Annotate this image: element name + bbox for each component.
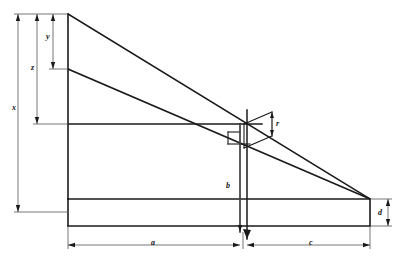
arrow-b-bottom [238,225,242,232]
figure-canvas: x z y r b a c d [0,0,401,269]
arrow-c-right [363,243,370,247]
dimension-label-y: y [46,33,50,41]
arrow-a-right [233,243,240,247]
wedge-outline [68,14,370,199]
arrow-a-left [68,243,75,247]
diagram-svg [0,0,401,269]
arrow-d-bottom [386,219,390,226]
arrow-x-top [16,14,20,21]
dimension-label-c: c [309,239,313,247]
dimension-arrowheads [16,14,390,247]
detail-upper-edge [244,112,272,124]
dimension-label-x: x [12,104,16,112]
arrow-x-bottom [16,205,20,212]
dimension-label-d: d [378,209,382,217]
arrow-z-bottom [35,117,39,124]
detail-lower-edge [244,136,272,148]
arrow-r-bottom [270,130,274,136]
dimension-lines [14,14,392,249]
dimension-label-a: a [151,239,155,247]
inner-vertical-arrowhead [243,229,251,239]
upper-slope-line [68,14,370,199]
dimension-label-z: z [31,64,34,72]
arrow-y-bottom [51,62,55,69]
arrow-y-top [51,14,55,21]
arrow-c-left [247,243,254,247]
base-slab [68,199,370,226]
lower-slope-line [68,69,370,199]
arrow-z-top [35,14,39,21]
arrow-d-top [386,199,390,206]
intersection-detail-shape [228,112,272,148]
dimension-label-b: b [226,182,230,190]
dimension-label-r: r [276,120,279,128]
